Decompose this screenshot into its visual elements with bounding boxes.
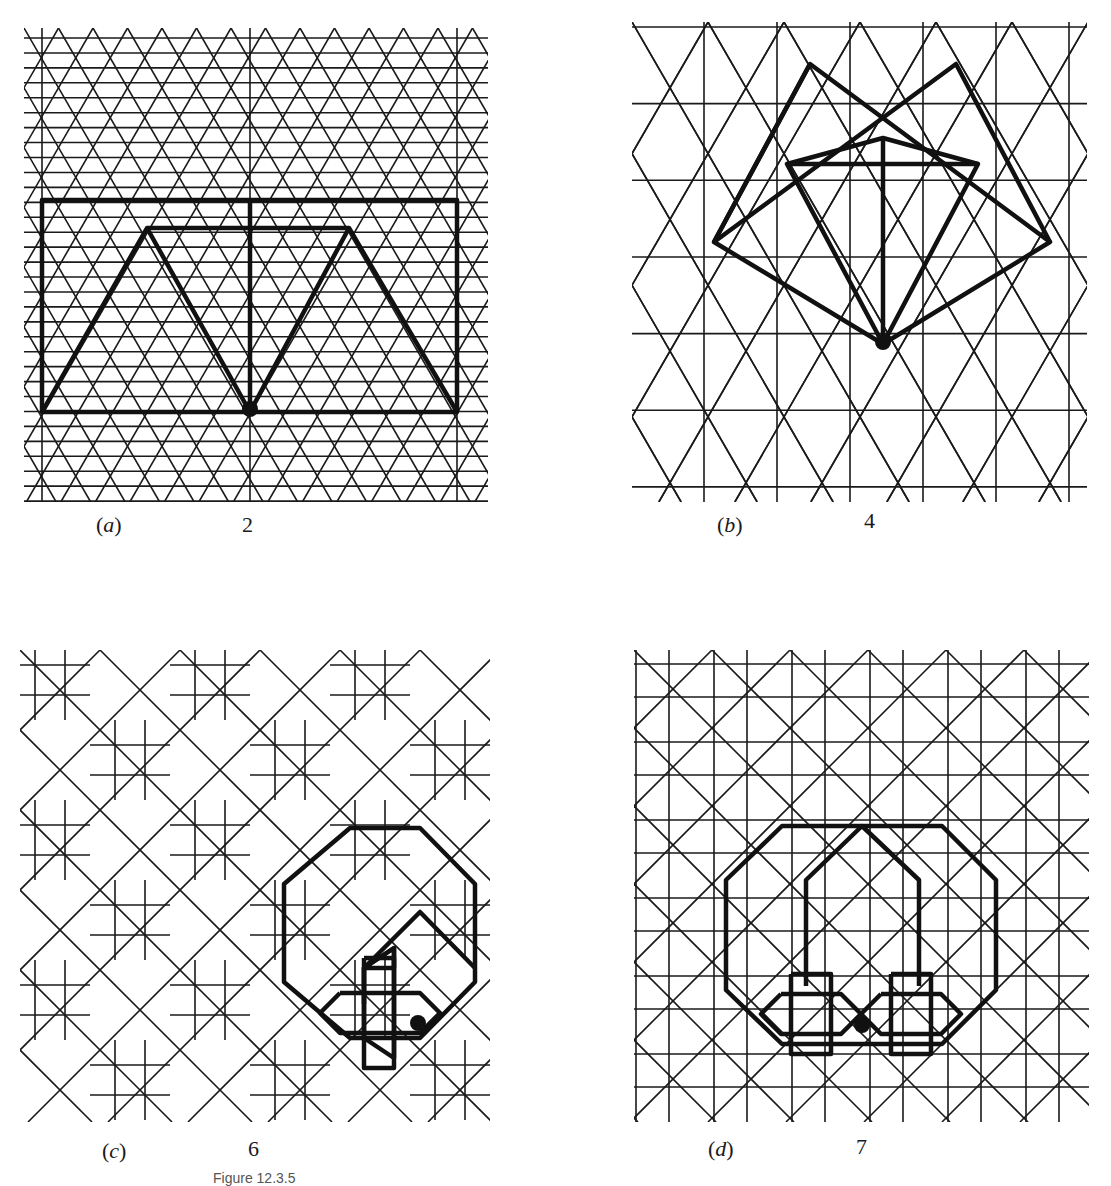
panel-b-diagram <box>632 22 1087 502</box>
panel-d-caption: (d) <box>708 1138 734 1160</box>
panel-a-number: 2 <box>242 514 253 536</box>
diamond-grid-graphic <box>634 650 1089 1122</box>
panel-a-caption: (a) <box>96 514 122 536</box>
triangular-lattice-graphic <box>24 28 488 502</box>
panel-c-diagram <box>20 650 490 1122</box>
panel-c-caption: (c) <box>102 1140 126 1162</box>
panel-b-number: 4 <box>864 510 875 532</box>
marked-point <box>854 1017 870 1033</box>
panel-d-number: 7 <box>856 1136 867 1158</box>
panel-a-diagram <box>24 28 488 502</box>
panel-d-diagram <box>634 650 1089 1122</box>
highlight-star <box>320 948 440 1068</box>
star-lattice-graphic <box>20 650 490 1122</box>
square-lattice-graphic <box>632 22 1087 502</box>
marked-point <box>242 401 258 417</box>
panel-c-number: 6 <box>248 1138 259 1160</box>
figure-title: Figure 12.3.5 <box>213 1170 296 1186</box>
marked-point <box>875 334 891 350</box>
highlight-octagon <box>284 828 475 1038</box>
marked-point <box>410 1015 426 1031</box>
panel-b-caption: (b) <box>717 514 743 536</box>
